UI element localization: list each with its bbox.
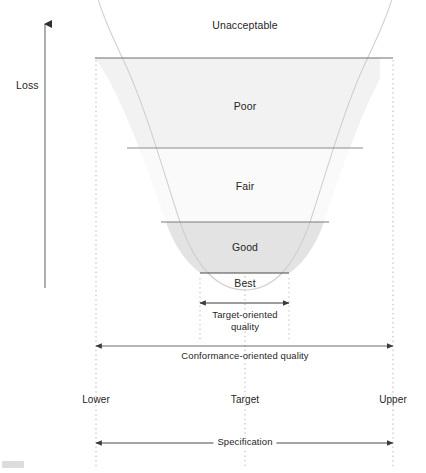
span-label-conformance-oriented-quality: Conformance-oriented quality <box>181 351 308 362</box>
tick-label-upper: Upper <box>379 394 407 406</box>
band-label-fair: Fair <box>236 180 254 192</box>
span-label-target-oriented-quality: Target-oriented quality <box>197 309 293 333</box>
diagram-canvas <box>0 0 426 473</box>
taguchi-loss-diagram: Loss Unacceptable Poor Fair Good Best Ta… <box>0 0 426 473</box>
band-label-poor: Poor <box>234 100 257 112</box>
band-label-unacceptable: Unacceptable <box>212 19 277 31</box>
span-label-specification: Specification <box>213 437 276 448</box>
band-label-good: Good <box>232 241 258 253</box>
band-fill-good <box>60 222 380 273</box>
band-fill-fair <box>60 148 380 222</box>
tick-label-lower: Lower <box>82 394 110 406</box>
band-label-best: Best <box>234 277 255 289</box>
tick-label-target: Target <box>231 394 259 406</box>
loss-axis-label: Loss <box>16 79 39 91</box>
band-fill-poor <box>60 58 380 148</box>
corner-artifact <box>2 461 24 468</box>
band-fill-group <box>60 58 380 293</box>
